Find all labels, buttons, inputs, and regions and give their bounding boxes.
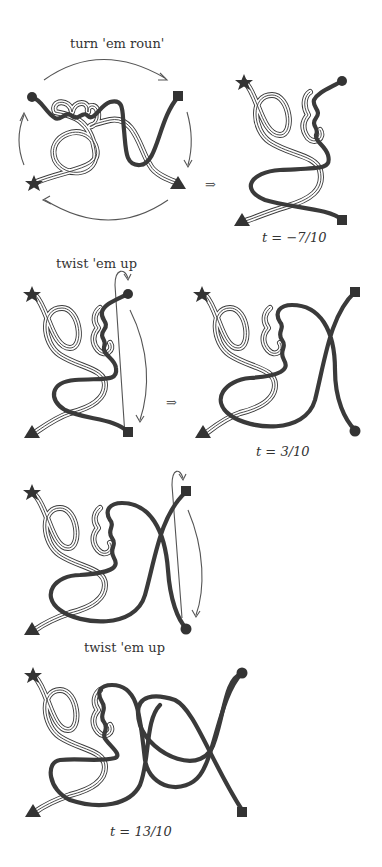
square-marker xyxy=(181,486,191,496)
panel-twist-em-up-2 xyxy=(0,470,230,650)
ribbon-strand xyxy=(242,82,321,222)
ribbon-strand xyxy=(35,495,111,630)
ribbon-strand xyxy=(205,295,281,434)
circle-marker xyxy=(337,76,347,86)
square-marker xyxy=(350,287,360,297)
panel-t-neg-7-10 xyxy=(190,50,382,240)
thick-strand-b xyxy=(51,673,242,805)
circle-marker xyxy=(237,668,248,679)
square-marker xyxy=(123,427,133,437)
circle-marker xyxy=(27,92,37,102)
panel-t-3-10 xyxy=(180,250,382,450)
circle-marker xyxy=(123,289,133,299)
thick-strand xyxy=(138,673,242,810)
panel-twist-em-up-1 xyxy=(0,250,180,450)
square-marker xyxy=(173,91,183,101)
square-marker xyxy=(337,215,347,225)
circle-marker xyxy=(181,624,192,635)
thick-strand xyxy=(251,81,342,220)
square-marker xyxy=(237,807,247,817)
panel-t-13-10 xyxy=(0,660,280,830)
panel-turn-em-roun xyxy=(0,0,200,240)
rotation-arrows xyxy=(19,59,192,220)
circle-marker xyxy=(350,426,361,437)
